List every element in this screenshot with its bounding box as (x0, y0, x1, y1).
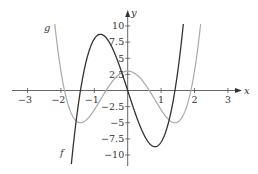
x-axis-arrow-icon (235, 88, 242, 93)
x-tick-label: −3 (18, 94, 32, 105)
curve-label-f: f (59, 147, 66, 158)
y-tick-label: −5 (110, 117, 124, 128)
function-plot: −3−2−1123 107.552.5−2.5−5−7.5−10 x y g f (0, 0, 258, 174)
x-tick-label: 1 (158, 94, 164, 105)
curve-f (69, 5, 185, 174)
x-tick-label: −1 (85, 94, 99, 105)
y-tick-label: −10 (104, 149, 124, 160)
x-tick-label: 3 (225, 94, 231, 105)
y-tick-label: 5 (118, 53, 124, 64)
y-tick-label: 10 (112, 20, 124, 31)
curve-label-g: g (44, 22, 50, 33)
x-tick-label: −2 (51, 94, 65, 105)
y-axis-arrow-icon (125, 10, 130, 17)
y-tick-label: −7.5 (101, 133, 124, 144)
y-axis: 107.552.5−2.5−5−7.5−10 (101, 10, 130, 166)
x-axis: −3−2−1123 (12, 88, 242, 105)
x-tick-label: 2 (191, 94, 197, 105)
y-tick-label: −2.5 (101, 101, 124, 112)
x-axis-label: x (244, 85, 250, 96)
y-axis-label: y (130, 7, 137, 18)
